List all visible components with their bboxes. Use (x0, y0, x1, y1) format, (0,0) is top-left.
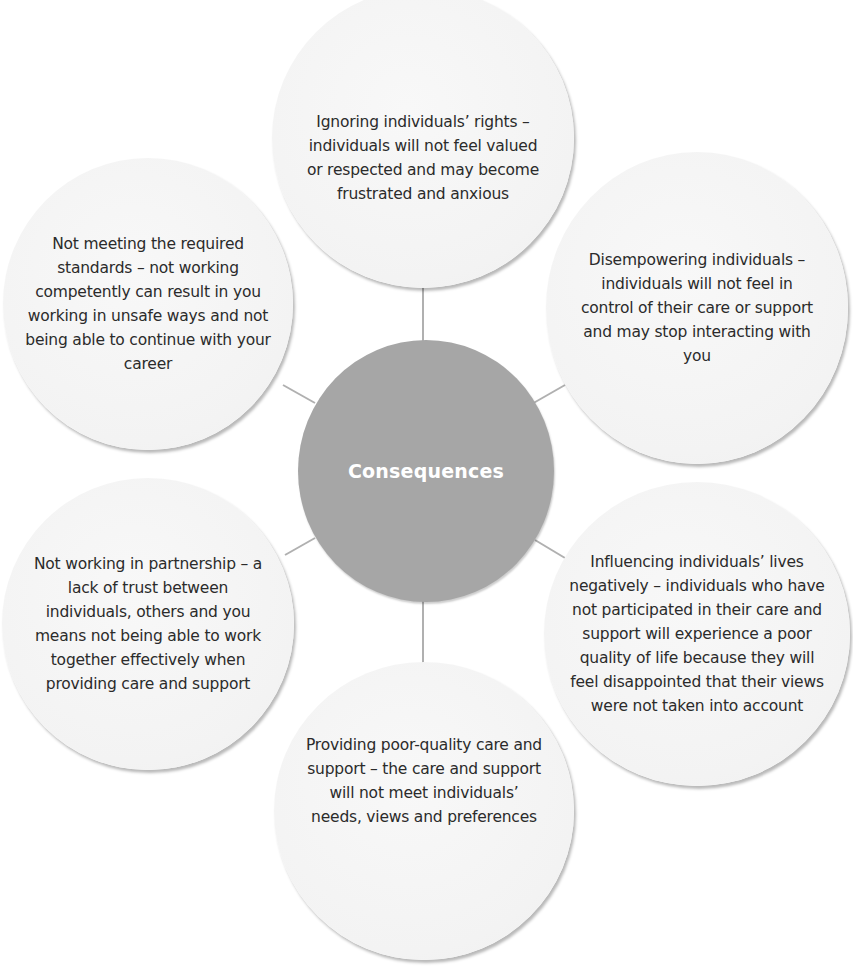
bubble-influencing-lives: Influencing individuals’ lives negativel… (544, 482, 850, 786)
bubble-text: Not meeting the required standards – not… (25, 232, 271, 376)
bubble-text: Disempowering individuals – individuals … (580, 248, 814, 368)
bubble-text: Not working in partnership – a lack of t… (26, 552, 270, 696)
bubble-not-working-in-partnership: Not working in partnership – a lack of t… (2, 478, 294, 770)
bubble-text: Providing poor-quality care and support … (304, 733, 544, 829)
bubble-text: Influencing individuals’ lives negativel… (568, 550, 826, 718)
center-label: Consequences (348, 460, 504, 482)
connector-top-left (283, 385, 315, 403)
bubble-disempowering: Disempowering individuals – individuals … (546, 152, 848, 464)
bubble-not-meeting-standards: Not meeting the required standards – not… (3, 158, 293, 450)
connector-bottom-left (285, 538, 315, 555)
bubble-text: Ignoring individuals’ rights – individua… (306, 110, 540, 206)
bubble-ignoring-rights: Ignoring individuals’ rights – individua… (272, 0, 574, 288)
connector-bottom-right (535, 540, 565, 558)
center-hub-consequences: Consequences (298, 340, 554, 602)
bubble-poor-quality-care: Providing poor-quality care and support … (274, 662, 574, 960)
